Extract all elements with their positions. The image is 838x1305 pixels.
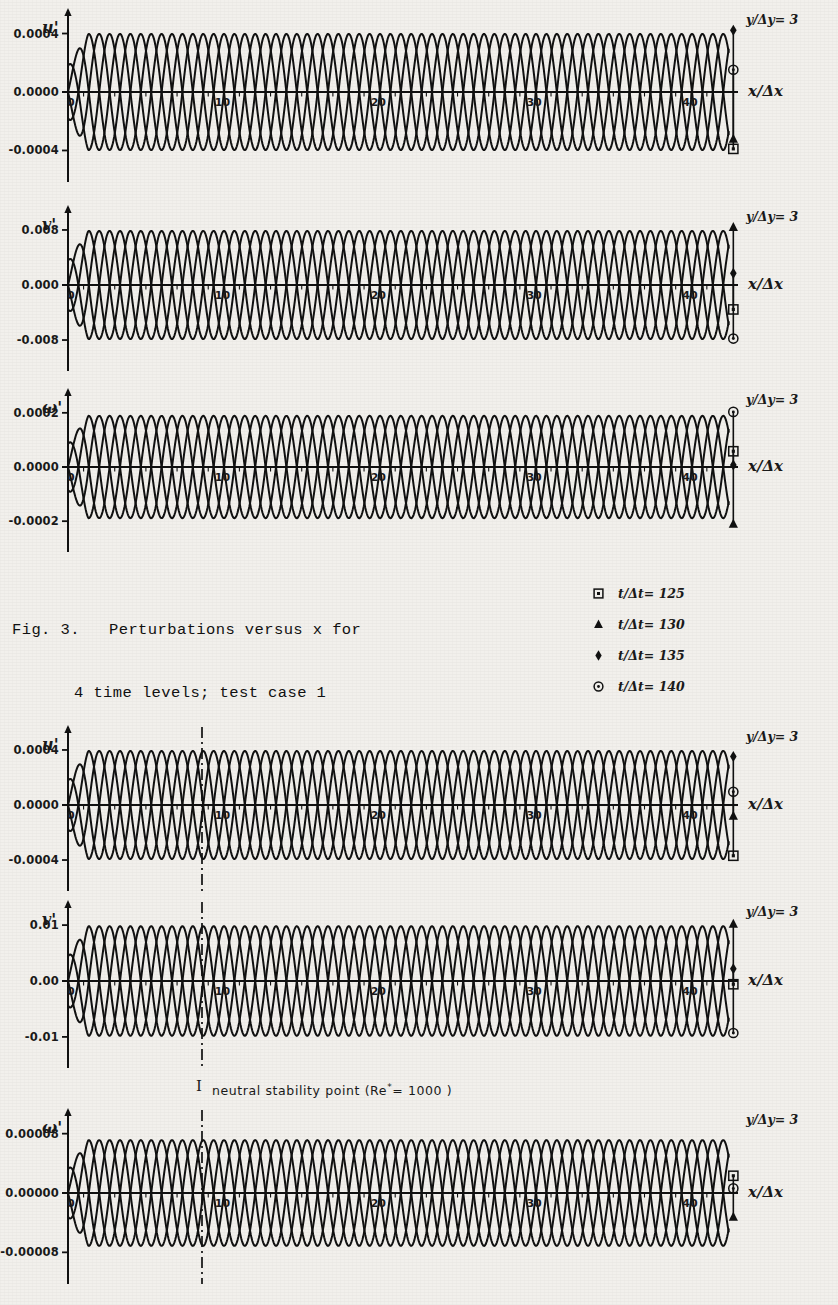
legend-item: t/Δt= 135 [592,640,685,671]
plot-svg [0,1108,838,1288]
y-tick-label: -0.008 [0,333,59,347]
y-tick-label: -0.01 [0,1030,59,1044]
legend-item-label: t/Δt= 130 [618,617,685,632]
plot-panel-6: ω'0.000080.00000-0.00008010203040x/Δxy/Δ… [0,1108,838,1288]
x-tick-label: 30 [526,809,541,822]
legend-item-label: t/Δt= 125 [618,586,685,601]
plot-panel-2: v'0.0080.000-0.008010203040x/Δxy/Δy= 3 [0,205,838,375]
y-axis-arrow [64,388,71,396]
x-tick-label: 30 [526,289,541,302]
plot-panel-5: v'0.010.00-0.01010203040x/Δxy/Δy= 3 [0,900,838,1072]
plot-svg [0,900,838,1072]
y-tick-label: -0.0002 [0,514,59,528]
x-tick-label: 0 [67,1197,75,1210]
y-axis-arrow [64,8,71,16]
diamond-marker [592,649,605,662]
y-axis-arrow [64,205,71,213]
x-tick-label: 20 [371,96,386,109]
y-tick-label: 0.00 [0,974,59,988]
circle-dot-marker [592,680,605,693]
x-axis-label: x/Δx [748,457,783,475]
x-tick-label: 10 [215,471,230,484]
square-marker [592,587,605,600]
depth-label: y/Δy= 3 [746,392,798,407]
x-tick-label: 40 [682,96,697,109]
x-tick-label: 30 [526,471,541,484]
x-tick-label: 20 [371,809,386,822]
end-marker [729,919,738,928]
x-axis-label: x/Δx [748,82,783,100]
x-tick-label: 10 [215,96,230,109]
x-tick-label: 20 [371,289,386,302]
x-tick-label: 40 [682,471,697,484]
end-marker [730,963,737,974]
y-tick-label: 0.0000 [0,85,59,99]
plot-svg [0,725,838,895]
figure-caption: Fig. 3. Perturbations versus x for 4 tim… [12,578,361,746]
neutral-stability-bar: I [196,1077,202,1095]
x-tick-label: 0 [67,985,75,998]
y-axis-arrow [64,900,71,908]
depth-label: y/Δy= 3 [746,729,798,744]
legend-item: t/Δt= 125 [592,578,685,609]
y-tick-label: -0.0004 [0,853,59,867]
y-tick-label: 0.0002 [0,406,59,420]
plot-svg [0,8,838,186]
legend-item-label: t/Δt= 135 [618,648,685,663]
end-marker [729,519,738,528]
x-tick-label: 20 [371,1197,386,1210]
x-tick-label: 0 [67,471,75,484]
x-tick-label: 10 [215,1197,230,1210]
y-tick-label: 0.01 [0,918,59,932]
triangle-marker [592,618,605,631]
y-axis-arrow [64,1108,71,1116]
plot-svg [0,388,838,556]
y-tick-label: 0.0004 [0,27,59,41]
x-axis-label: x/Δx [748,795,783,813]
x-tick-label: 0 [67,809,75,822]
x-tick-label: 40 [682,809,697,822]
y-tick-label: 0.000 [0,278,59,292]
x-tick-label: 10 [215,289,230,302]
y-tick-label: 0.0000 [0,460,59,474]
figure-page: u'0.00040.0000-0.0004010203040x/Δxy/Δy= … [0,0,838,1305]
y-tick-label: -0.0004 [0,143,59,157]
plot-panel-4: u'0.00040.0000-0.0004010203040x/Δxy/Δy= … [0,725,838,895]
x-tick-label: 20 [371,985,386,998]
x-tick-label: 0 [67,289,75,302]
x-tick-label: 30 [526,1197,541,1210]
x-axis-label: x/Δx [748,1183,783,1201]
y-tick-label: 0.008 [0,223,59,237]
depth-label: y/Δy= 3 [746,1112,798,1127]
plot-panel-1: u'0.00040.0000-0.0004010203040x/Δxy/Δy= … [0,8,838,186]
time-level-legend: t/Δt= 125t/Δt= 130t/Δt= 135t/Δt= 140 [592,578,685,702]
y-tick-label: -0.00008 [0,1245,59,1259]
end-marker [730,25,737,36]
depth-label: y/Δy= 3 [746,904,798,919]
legend-item-label: t/Δt= 140 [618,679,685,694]
neutral-stability-note: neutral stability point (Re*= 1000 ) [212,1082,452,1098]
x-tick-label: 40 [682,289,697,302]
x-tick-label: 10 [215,809,230,822]
end-marker [729,1212,738,1221]
caption-line-1: Fig. 3. Perturbations versus x for [12,620,361,641]
x-tick-label: 10 [215,985,230,998]
x-tick-label: 30 [526,985,541,998]
y-tick-label: 0.00000 [0,1186,59,1200]
x-tick-label: 40 [682,1197,697,1210]
x-tick-label: 40 [682,985,697,998]
x-tick-label: 20 [371,471,386,484]
depth-label: y/Δy= 3 [746,209,798,224]
x-axis-label: x/Δx [748,275,783,293]
y-tick-label: 0.00008 [0,1127,59,1141]
end-marker [730,751,737,762]
plot-panel-3: ω'0.00020.0000-0.0002010203040x/Δxy/Δy= … [0,388,838,556]
end-marker [729,222,738,231]
depth-label: y/Δy= 3 [746,12,798,27]
x-tick-label: 30 [526,96,541,109]
caption-line-2: 4 time levels; test case 1 [12,683,361,704]
legend-item: t/Δt= 140 [592,671,685,702]
x-tick-label: 0 [67,96,75,109]
y-tick-label: 0.0000 [0,798,59,812]
plot-svg [0,205,838,375]
